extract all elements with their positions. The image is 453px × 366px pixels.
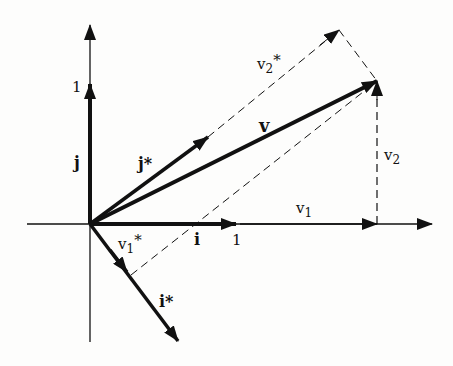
dashed-v2star-line bbox=[208, 30, 339, 137]
v2-label: v2 bbox=[383, 146, 400, 167]
v1-star-arrow bbox=[110, 250, 127, 272]
dashed-corner-to-v bbox=[339, 30, 377, 81]
i-star-label: i* bbox=[159, 292, 174, 311]
v1-label: v1 bbox=[295, 199, 312, 220]
dashed-v1star-to-v bbox=[131, 81, 377, 275]
x-unit-label: 1 bbox=[232, 231, 242, 249]
basis-diagram: 1 1 j j* v v2* v2 v1 v1* i i* bbox=[0, 0, 453, 366]
v2-star-label: v2* bbox=[256, 51, 281, 76]
i-label: i bbox=[194, 230, 200, 249]
y-unit-label: 1 bbox=[72, 78, 82, 96]
j-star-label: j* bbox=[136, 154, 153, 173]
v-label: v bbox=[258, 115, 270, 136]
v2-star-arrow bbox=[320, 30, 339, 45]
v1-star-label: v1* bbox=[117, 231, 142, 256]
v-vector bbox=[90, 81, 377, 224]
j-label: j bbox=[72, 153, 80, 172]
j-star-vector bbox=[90, 137, 208, 224]
